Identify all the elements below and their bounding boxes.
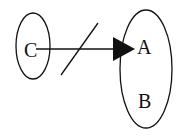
node-label-a: A — [137, 36, 152, 58]
arrowhead-icon — [113, 37, 135, 61]
diagram-canvas: C A B — [0, 0, 182, 138]
node-label-b: B — [138, 90, 151, 112]
diagram-svg: C A B — [0, 0, 182, 138]
node-label-c: C — [24, 39, 37, 61]
